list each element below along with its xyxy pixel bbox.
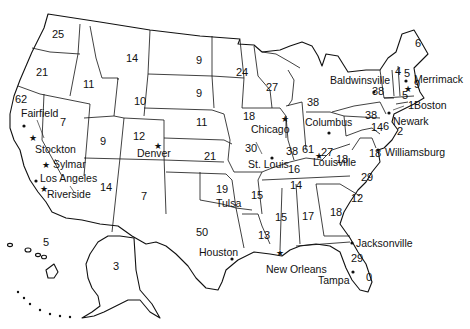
- label-AR: 15: [251, 189, 263, 201]
- label-TN: 14: [290, 179, 302, 191]
- star-icon: ★: [42, 160, 50, 170]
- city-stockton: Stockton: [35, 143, 76, 155]
- label-WI: 27: [266, 81, 278, 93]
- label-NE: 11: [196, 116, 207, 128]
- label-DE: 6: [383, 120, 389, 132]
- city-los-angeles: Los Angeles: [40, 172, 97, 184]
- city-riverside: Riverside: [47, 188, 91, 200]
- dot-icon: [376, 148, 379, 151]
- city-williamsburg: Williamsburg: [385, 146, 445, 158]
- label-NV: 7: [60, 116, 66, 128]
- aleutian-islands: [17, 291, 71, 318]
- label-WA: 25: [52, 28, 64, 40]
- label-SC: 12: [351, 192, 363, 204]
- label-MT: 14: [126, 52, 138, 64]
- label-UT: 9: [100, 135, 106, 147]
- label-MI: 38: [307, 96, 319, 108]
- label-IN: 61: [302, 143, 314, 155]
- city-fairfield: Fairfield: [21, 107, 59, 119]
- dot-icon: [387, 111, 390, 114]
- label-WY: 10: [134, 95, 146, 107]
- dot-icon: [372, 90, 375, 93]
- dot-icon: [327, 131, 330, 134]
- label-MD: 14: [371, 121, 383, 133]
- label-GA: 18: [330, 206, 342, 218]
- star-icon: ★: [29, 133, 37, 143]
- label-LA: 13: [258, 229, 270, 241]
- city-newark: Newark: [393, 115, 429, 127]
- label-VT: 4: [395, 65, 401, 77]
- city-denver: Denver: [137, 147, 171, 159]
- label-KS: 21: [204, 150, 216, 162]
- label-AZ: 14: [100, 181, 112, 193]
- city-chicago: Chicago: [251, 123, 290, 135]
- city-tampa: Tampa: [318, 274, 350, 286]
- label-VA: 18: [369, 147, 381, 159]
- label-PA: 38: [365, 109, 377, 121]
- city-jacksonville: Jacksonville: [356, 237, 413, 249]
- city-merrimack: Merrimack: [414, 73, 464, 85]
- label-AL: 17: [302, 210, 314, 222]
- city-tulsa: Tulsa: [216, 197, 241, 209]
- city-st-louis: St. Louis: [248, 158, 289, 170]
- label-MO: 30: [245, 142, 257, 154]
- star-icon: ★: [276, 248, 284, 258]
- label-KY: 16: [288, 163, 300, 175]
- label-IL: 38: [286, 145, 298, 157]
- label-MN: 24: [236, 66, 248, 78]
- city-baldwinsville: Baldwinsville: [330, 74, 390, 86]
- label-MS: 15: [275, 211, 287, 223]
- label-ID: 11: [83, 78, 94, 90]
- label-OR: 21: [36, 66, 48, 78]
- hawaii-islands: [8, 243, 59, 278]
- dot-icon: [351, 270, 354, 273]
- city-columbus: Columbus: [305, 116, 352, 128]
- dot-icon: [404, 79, 407, 82]
- city-houston: Houston: [199, 246, 238, 258]
- label-CA: 62: [15, 93, 27, 105]
- dot-icon: [34, 179, 37, 182]
- label-NC: 29: [361, 171, 373, 183]
- label-HI: 5: [43, 236, 49, 248]
- label-ME: 6: [415, 37, 421, 49]
- label-FL: 29: [351, 252, 363, 264]
- city-louisville: Louisville: [313, 156, 356, 168]
- star-icon: ★: [404, 84, 412, 94]
- label-IA: 18: [243, 110, 255, 122]
- label-SD: 9: [196, 87, 202, 99]
- alaska-shape: [82, 236, 160, 318]
- us-map: 25 21 11 14 9 24 27 38 9 10 7 62 9 12 11…: [0, 0, 470, 329]
- label-NH: 5: [404, 67, 410, 79]
- label-ND: 9: [196, 54, 202, 66]
- dot-icon: [22, 124, 25, 127]
- label-AK: 3: [113, 260, 119, 272]
- label-TX: 50: [196, 226, 208, 238]
- dot-icon: [350, 241, 353, 244]
- label-FL-south: 0: [366, 271, 372, 283]
- label-OK: 19: [216, 183, 228, 195]
- city-boston: Boston: [414, 99, 447, 111]
- label-NM: 7: [141, 190, 147, 202]
- label-CO: 12: [133, 130, 145, 142]
- city-sylmar: Sylmar: [53, 158, 86, 170]
